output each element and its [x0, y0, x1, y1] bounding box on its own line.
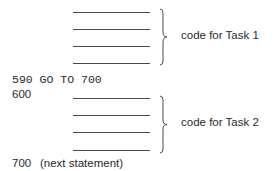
task1-label: code for Task 1	[181, 29, 259, 41]
next-statement-text: (next statement)	[40, 157, 123, 169]
right-brace-icon	[158, 95, 170, 154]
code-line-placeholder	[73, 115, 150, 116]
task2-label: code for Task 2	[181, 116, 259, 128]
right-brace-icon	[158, 8, 170, 66]
task2-line-number: 600	[12, 88, 31, 100]
code-line-placeholder	[73, 12, 150, 13]
code-line-placeholder	[73, 150, 150, 151]
code-line-placeholder	[73, 29, 150, 30]
code-line-placeholder	[73, 132, 150, 133]
code-line-placeholder	[73, 98, 150, 99]
next-line-number: 700	[12, 157, 31, 169]
code-line-placeholder	[73, 46, 150, 47]
goto-statement: 590 GO TO 700	[12, 73, 102, 86]
code-line-placeholder	[73, 63, 150, 64]
